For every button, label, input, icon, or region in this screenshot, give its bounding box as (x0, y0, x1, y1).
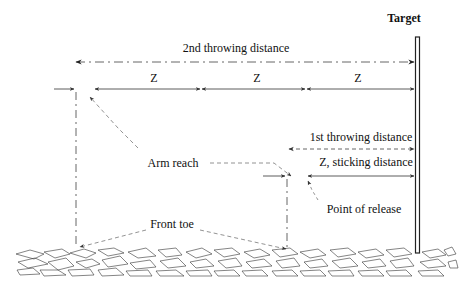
front-toe-label: Front toe (150, 218, 194, 230)
arm-reach-label: Arm reach (148, 157, 199, 169)
point-of-release-leader (308, 181, 318, 200)
front-toe-leaders (80, 230, 286, 249)
point-of-release-label: Point of release (327, 203, 402, 215)
second-throwing-distance-label: 2nd throwing distance (183, 42, 290, 54)
z-label-3: Z (354, 72, 361, 84)
z-label-2: Z (253, 72, 260, 84)
diagram-canvas: Target 2nd throwing distance Z Z Z 1st t… (0, 0, 470, 289)
target-pole (416, 37, 420, 253)
target-label: Target (387, 12, 421, 24)
first-throwing-distance-label: 1st throwing distance (310, 131, 413, 143)
z-label-1: Z (150, 72, 157, 84)
ground-rocks (16, 247, 458, 276)
sticking-distance-label: Z, sticking distance (319, 156, 413, 168)
